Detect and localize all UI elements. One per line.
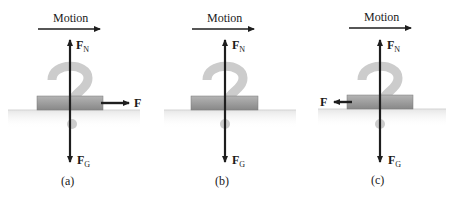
- diagram-graphics: [0, 0, 451, 197]
- motion-label: Motion: [207, 11, 242, 26]
- question-dot-icon: [67, 119, 77, 129]
- panel-caption: (b): [215, 174, 229, 189]
- panel-c-graphics: [318, 28, 446, 162]
- normal-force-label: FN: [232, 38, 245, 54]
- gravity-force-label: FG: [232, 153, 245, 169]
- panel-caption: (a): [61, 174, 74, 189]
- motion-label: Motion: [53, 11, 88, 26]
- applied-force-label: F: [134, 96, 141, 111]
- normal-force-label: FN: [387, 38, 400, 54]
- normal-force-label: FN: [76, 38, 89, 54]
- gravity-force-label: FG: [388, 153, 401, 169]
- panel-caption: (c): [371, 173, 384, 188]
- panel-a-graphics: [8, 29, 140, 162]
- motion-label: Motion: [364, 10, 399, 25]
- ground-shadow: [164, 110, 296, 128]
- panel-b-graphics: [164, 29, 296, 162]
- gravity-force-label: FG: [77, 153, 90, 169]
- applied-force-label: F: [320, 95, 327, 110]
